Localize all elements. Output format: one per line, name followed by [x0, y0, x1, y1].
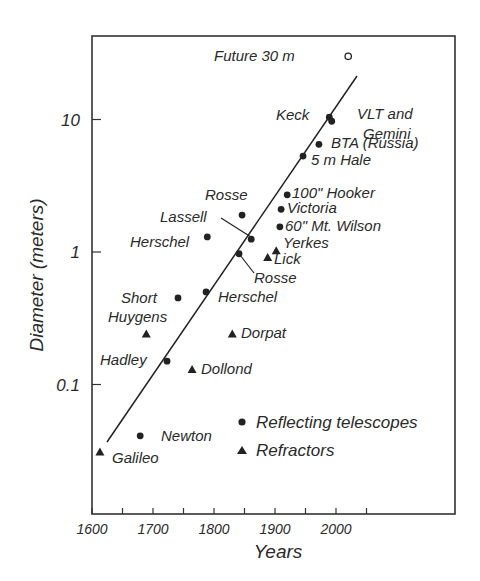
refractor-triangle-icon	[228, 330, 237, 338]
point-label: Hadley	[100, 351, 148, 368]
reflector-dot-icon	[276, 223, 283, 230]
future-open-circle-icon	[345, 53, 351, 59]
point-label: Huygens	[108, 308, 168, 325]
chart: 16001700180019002000 1010.1 NewtonHadley…	[0, 0, 480, 581]
point-labels: NewtonHadleyShortHerschelHerschelRosseRo…	[100, 47, 419, 466]
reflector-dot-icon	[203, 288, 210, 295]
point-label: Lassell	[160, 208, 207, 225]
point-label: Future 30 m	[214, 47, 295, 64]
x-tick-label: 1800	[198, 521, 229, 537]
refractor-triangle-icon	[95, 447, 104, 455]
legend: Reflecting telescopes Refractors	[237, 413, 418, 460]
reflector-dot-icon	[278, 206, 285, 213]
reflector-dot-icon	[248, 236, 255, 243]
reflector-dot-icon	[164, 358, 171, 365]
point-label: Lick	[274, 250, 302, 267]
point-label: Herschel	[218, 288, 278, 305]
reflector-dot-icon	[328, 118, 335, 125]
reflector-dot-icon	[236, 250, 243, 257]
point-label: 60" Mt. Wilson	[285, 217, 381, 234]
point-label: Newton	[161, 427, 212, 444]
point-label: 100" Hooker	[292, 184, 376, 201]
reflector-dot-icon	[137, 432, 144, 439]
refractor-triangle-icon	[142, 330, 151, 338]
y-axis-title: Diameter (meters)	[26, 198, 47, 351]
point-label: Herschel	[130, 233, 190, 250]
label-connectors	[221, 218, 254, 273]
reflector-dot-icon	[239, 212, 246, 219]
y-tick-label: 10	[61, 111, 80, 130]
refractor-triangle-icon	[263, 253, 272, 261]
reflector-dot-icon	[284, 191, 291, 198]
point-label: Victoria	[287, 199, 337, 216]
point-label: Keck	[276, 106, 311, 123]
reflector-dot-icon	[175, 295, 182, 302]
point-label: Rosse	[254, 269, 297, 286]
refractor-triangle-icon	[188, 365, 197, 373]
legend-circle-icon	[238, 418, 245, 425]
x-tick-label: 2000	[319, 521, 351, 537]
y-tick-label: 0.1	[56, 376, 80, 395]
point-label: 5 m Hale	[311, 151, 371, 168]
point-label: Dollond	[201, 360, 253, 377]
data-points	[95, 53, 351, 455]
x-axis-ticks: 16001700180019002000	[76, 508, 366, 537]
point-label: Dorpat	[241, 324, 287, 341]
legend-triangle-icon	[237, 446, 247, 454]
reflector-dot-icon	[316, 141, 323, 148]
point-label: Short	[121, 289, 158, 306]
reflector-dot-icon	[204, 234, 211, 241]
legend-label-refractors: Refractors	[256, 441, 335, 460]
reflector-dot-icon	[300, 153, 307, 160]
x-tick-label: 1600	[76, 521, 107, 537]
y-axis-ticks: 1010.1	[56, 111, 101, 395]
x-tick-label: 1900	[259, 521, 290, 537]
x-axis-title: Years	[254, 541, 303, 562]
y-tick-label: 1	[71, 243, 80, 262]
point-label: Yerkes	[283, 234, 329, 251]
point-label: Galileo	[112, 449, 159, 466]
point-label: VLT andGemini	[357, 105, 413, 142]
trend-line	[107, 76, 357, 442]
point-label: Rosse	[205, 186, 248, 203]
x-tick-label: 1700	[137, 521, 168, 537]
legend-label-reflecting: Reflecting telescopes	[256, 413, 418, 432]
